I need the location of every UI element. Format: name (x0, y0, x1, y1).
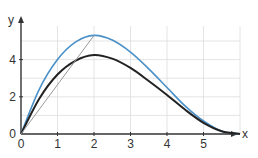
x-tick-label: 0 (18, 137, 25, 151)
x-tick-label: 4 (164, 137, 171, 151)
grid (21, 26, 240, 134)
chart: 012345024xy (0, 0, 258, 158)
y-axis-arrow-icon (18, 16, 24, 23)
x-tick-label: 2 (91, 137, 98, 151)
y-axis-label: y (8, 13, 14, 27)
tick-labels: 012345024xy (8, 13, 248, 151)
y-tick-label: 4 (9, 53, 16, 67)
axes (18, 16, 238, 137)
y-tick-label: 2 (9, 90, 16, 104)
x-axis-label: x (242, 127, 248, 141)
x-tick-label: 5 (200, 137, 207, 151)
x-tick-label: 3 (127, 137, 134, 151)
y-tick-label: 0 (9, 127, 16, 141)
x-tick-label: 1 (54, 137, 61, 151)
